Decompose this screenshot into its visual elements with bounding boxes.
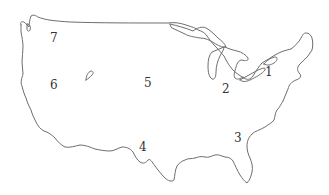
region-label-3: 3: [234, 132, 242, 144]
us-border-outline: [20, 15, 312, 183]
lake-michigan-outline: [208, 47, 224, 79]
region-label-2: 2: [222, 83, 230, 95]
lake-ontario-outline: [264, 57, 277, 65]
lake-erie-outline: [240, 68, 265, 81]
region-label-1: 1: [265, 66, 273, 78]
region-label-4: 4: [139, 141, 147, 153]
great-salt-lake-outline: [86, 71, 93, 80]
region-label-6: 6: [50, 79, 58, 91]
lake-superior-outline: [170, 24, 226, 47]
us-outline-map: [0, 0, 329, 195]
region-label-7: 7: [50, 32, 58, 44]
region-label-5: 5: [144, 77, 152, 89]
lake-huron-outline: [225, 47, 248, 79]
